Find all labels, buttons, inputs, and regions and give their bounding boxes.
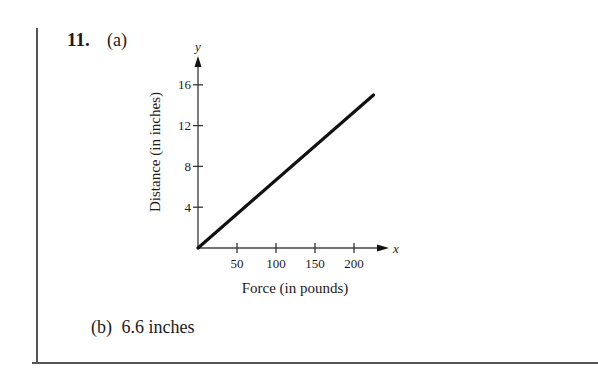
- y-tick-label: 16: [178, 77, 192, 92]
- x-axis-label: Force (in pounds): [242, 280, 349, 297]
- y-tick-label: 8: [185, 159, 192, 174]
- x-tick-label: 150: [305, 256, 325, 271]
- x-tick-label: 200: [344, 256, 364, 271]
- y-axis-var: y: [193, 39, 201, 54]
- line-chart: y x 481216 50100150200 Distance (in inch…: [0, 0, 598, 381]
- x-tick-label: 50: [231, 256, 244, 271]
- y-axis-arrow-icon: [195, 56, 202, 67]
- x-axis-arrow-icon: [377, 245, 389, 252]
- x-ticks: 50100150200: [231, 243, 364, 271]
- x-tick-label: 100: [266, 256, 286, 271]
- y-tick-label: 12: [178, 118, 191, 133]
- y-tick-label: 4: [185, 200, 192, 215]
- part-b-answer: 6.6 inches: [122, 317, 195, 337]
- part-b-label: (b): [91, 317, 112, 337]
- data-line: [198, 95, 374, 248]
- y-ticks: 481216: [178, 77, 203, 214]
- y-axis-label: Distance (in inches): [147, 92, 164, 212]
- part-b: (b) 6.6 inches: [91, 317, 194, 338]
- x-axis-var: x: [392, 241, 399, 256]
